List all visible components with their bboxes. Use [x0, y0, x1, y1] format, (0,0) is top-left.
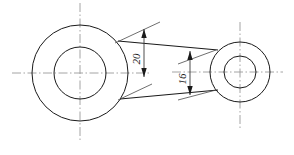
dim-20-upper-extension [115, 22, 160, 43]
dim-16-upper-arrowhead [187, 51, 192, 60]
rod-shank [118, 41, 218, 99]
dim-20-label: 20 [130, 53, 142, 65]
centerline-group [12, 3, 283, 141]
dim-16-lower-arrowhead [187, 86, 192, 95]
rod-upper-edge [118, 41, 218, 50]
technical-drawing-canvas: 20 16 [0, 0, 294, 155]
dim-16-upper-extension [178, 50, 216, 64]
dim-16-label: 16 [176, 73, 188, 85]
rod-lower-edge [120, 90, 218, 99]
drawing-svg: 20 16 [0, 0, 294, 155]
dim-20-lower-arrowhead [141, 68, 146, 77]
dimension-20: 20 [115, 22, 160, 100]
